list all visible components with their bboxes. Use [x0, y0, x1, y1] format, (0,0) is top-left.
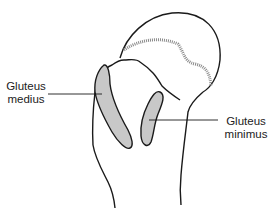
- gluteus-minimus-label-line1: Gluteus: [221, 115, 271, 128]
- gluteus-medius-label-line1: Gluteus: [6, 80, 46, 93]
- gluteus-minimus-label: Gluteus minimus: [221, 115, 271, 141]
- gluteus-minimus-insertion: [141, 92, 163, 146]
- gluteus-medius-insertion: [95, 65, 132, 148]
- gluteus-minimus-label-line2: minimus: [221, 128, 271, 141]
- gluteus-medius-label-line2: medius: [6, 93, 46, 106]
- femoral-head-outline: [120, 13, 220, 92]
- femur-illustration: [0, 0, 274, 217]
- articular-margin-hatching: [124, 40, 211, 86]
- gluteus-medius-label: Gluteus medius: [6, 80, 46, 106]
- neck-inner-line: [180, 92, 203, 205]
- femur-diagram: Gluteus medius Gluteus minimus: [0, 0, 274, 217]
